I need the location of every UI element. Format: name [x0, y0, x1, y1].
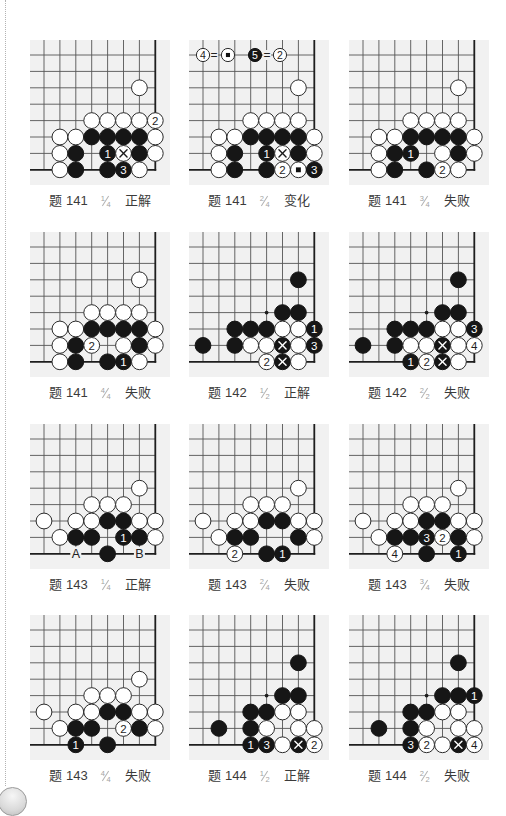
black-stone-icon — [243, 321, 259, 337]
white-stone-icon — [371, 162, 387, 178]
move-number: 3 — [311, 340, 317, 352]
diagram-result: 变化 — [284, 193, 310, 209]
white-stone-icon — [68, 704, 84, 720]
white-stone — [147, 721, 163, 737]
white-stone-icon — [211, 162, 227, 178]
white-stone — [435, 321, 451, 337]
white-stone — [84, 496, 100, 512]
white-stone — [435, 496, 451, 512]
fraction-denominator: 2 — [425, 393, 429, 400]
diagram-caption: 题 141 44 失败 — [30, 385, 170, 401]
white-stone — [52, 146, 68, 162]
white-stone-icon — [68, 513, 84, 529]
problem-number: 题 141 — [49, 193, 87, 209]
black-stone-icon — [291, 529, 307, 545]
black-stone-icon — [227, 162, 243, 178]
white-stone-icon — [451, 513, 467, 529]
page-corner-tab — [0, 787, 27, 816]
white-stone — [100, 113, 116, 129]
black-stone-icon — [68, 529, 84, 545]
white-stone: 2 — [147, 113, 163, 129]
white-stone-icon — [147, 529, 163, 545]
black-stone — [100, 704, 116, 720]
white-stone: 2 — [435, 529, 451, 545]
white-stone-icon — [84, 513, 100, 529]
black-stone: 1 — [451, 545, 467, 561]
white-stone — [451, 321, 467, 337]
diagram-141-2: 1234=5=2 题 141 24 变化 — [189, 40, 329, 216]
move-number: 1 — [73, 739, 79, 751]
white-stone — [116, 496, 132, 512]
black-stone-icon — [132, 321, 148, 337]
white-stone — [371, 146, 387, 162]
black-stone — [100, 162, 116, 178]
white-stone — [147, 338, 163, 354]
white-stone — [132, 162, 148, 178]
black-stone-icon — [371, 721, 387, 737]
black-stone-icon — [100, 129, 116, 145]
white-stone — [211, 529, 227, 545]
white-stone — [387, 513, 403, 529]
board-background — [189, 424, 329, 569]
fraction-denominator: 2 — [265, 393, 269, 400]
black-stone-icon — [132, 338, 148, 354]
white-stone-icon — [100, 688, 116, 704]
black-stone: 3 — [466, 321, 482, 337]
white-stone: 2 — [419, 354, 435, 370]
white-stone — [52, 129, 68, 145]
variation-fraction: 22 — [420, 387, 430, 400]
point-letter-label: B — [134, 546, 145, 561]
black-stone-icon — [403, 529, 419, 545]
black-stone-icon — [259, 129, 275, 145]
black-stone — [243, 704, 259, 720]
white-stone — [147, 529, 163, 545]
white-stone — [275, 321, 291, 337]
problem-number: 题 142 — [368, 385, 406, 401]
black-stone: 5 — [248, 48, 261, 61]
black-stone — [100, 129, 116, 145]
diagram-result: 失败 — [125, 768, 151, 784]
white-stone — [387, 129, 403, 145]
black-stone-icon — [100, 162, 116, 178]
white-stone — [147, 129, 163, 145]
white-stone-icon — [68, 321, 84, 337]
white-stone-icon — [36, 513, 52, 529]
white-stone — [227, 129, 243, 145]
move-number: 3 — [407, 739, 413, 751]
diagram-142-2: 3412 题 142 22 失败 — [349, 232, 489, 408]
black-stone — [100, 545, 116, 561]
black-stone — [291, 529, 307, 545]
move-number: 2 — [311, 739, 317, 751]
white-stone-icon — [306, 129, 322, 145]
white-stone — [306, 529, 322, 545]
diagram-141-4: 21 题 141 44 失败 — [30, 232, 170, 408]
white-stone — [306, 721, 322, 737]
black-stone — [419, 162, 435, 178]
white-stone-icon — [435, 321, 451, 337]
black-stone-icon — [403, 721, 419, 737]
white-stone-icon — [227, 513, 243, 529]
move-number: 3 — [263, 739, 269, 751]
black-stone: 1 — [403, 146, 419, 162]
problem-number: 题 143 — [49, 577, 87, 593]
black-stone-icon — [68, 354, 84, 370]
point-letter-label: A — [70, 546, 81, 561]
go-board-diagram: AB1 — [30, 424, 170, 569]
white-stone-icon — [451, 480, 467, 496]
white-stone-icon — [132, 162, 148, 178]
black-stone: 1 — [100, 146, 116, 162]
board-background — [349, 615, 489, 760]
black-stone — [243, 321, 259, 337]
white-stone — [211, 129, 227, 145]
white-stone — [275, 146, 291, 162]
white-stone — [243, 513, 259, 529]
white-stone-icon — [291, 80, 307, 96]
white-stone — [132, 671, 148, 687]
black-stone — [68, 529, 84, 545]
black-stone-icon — [132, 529, 148, 545]
white-stone-icon — [84, 305, 100, 321]
move-number: 3 — [120, 164, 126, 176]
black-stone-icon — [259, 545, 275, 561]
white-stone-icon — [291, 113, 307, 129]
fraction-numerator: 2 — [420, 387, 424, 394]
